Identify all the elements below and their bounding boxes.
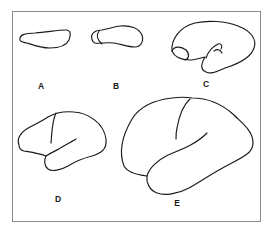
label-c: C bbox=[203, 80, 209, 89]
brain-comparison-figure: A B C D E bbox=[0, 0, 276, 230]
brain-outline-a bbox=[20, 30, 70, 48]
brain-outline-e bbox=[122, 97, 253, 194]
figure-artwork bbox=[0, 0, 276, 230]
brain-outline-d bbox=[18, 112, 106, 171]
brain-outline-b bbox=[92, 26, 143, 47]
label-b: B bbox=[113, 82, 119, 91]
label-e: E bbox=[174, 199, 180, 208]
label-d: D bbox=[55, 195, 61, 204]
brain-outline-c bbox=[172, 21, 255, 73]
label-a: A bbox=[38, 82, 44, 91]
